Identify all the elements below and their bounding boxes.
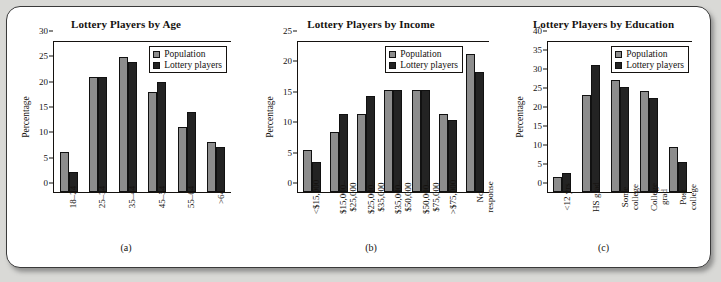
- x-axis-tick-label: Post college: [678, 184, 721, 210]
- bar-population: [640, 91, 649, 192]
- legend-label-population: Population: [626, 49, 667, 59]
- legend-item-lottery-players: Lottery players: [389, 60, 458, 70]
- y-axis-tick-label: 10: [39, 127, 48, 137]
- bar-population: [207, 142, 216, 192]
- legend-item-lottery-players: Lottery players: [153, 60, 222, 70]
- legend-item-lottery-players: Lottery players: [615, 60, 684, 70]
- x-axis-ticks: <12 yrsHS gradSome collegeCollege gradPo…: [547, 194, 692, 264]
- bar-group: [60, 42, 78, 192]
- bar-lottery-players: [620, 87, 629, 192]
- legend: Population Lottery players: [611, 46, 689, 73]
- y-axis-tick-label: 0: [288, 178, 293, 188]
- legend-swatch-lottery-players-icon: [153, 62, 160, 69]
- legend-label-population: Population: [164, 49, 205, 59]
- y-axis-tick-label: 15: [39, 102, 48, 112]
- bar-population: [119, 57, 128, 192]
- page-title: Lottery Players by Education: [497, 18, 710, 30]
- legend-item-population: Population: [153, 49, 222, 59]
- y-axis-tick-label: 15: [533, 121, 542, 131]
- y-axis-tick-label: 40: [533, 26, 542, 36]
- bar-lottery-players: [366, 96, 375, 192]
- y-axis-tick-label: 25: [533, 83, 542, 93]
- y-axis-tick-label: 0: [44, 178, 49, 188]
- y-axis-tick-label: 30: [533, 64, 542, 74]
- panel-caption-a: (a): [7, 242, 245, 253]
- y-axis-tick-label: 20: [283, 56, 292, 66]
- legend-swatch-population-icon: [615, 51, 622, 58]
- legend-label-population: Population: [400, 49, 441, 59]
- x-axis-ticks: <$15,000$15,000– $25,000$25,000– $35,000…: [297, 194, 489, 264]
- bar-population: [148, 92, 157, 192]
- bar-group: [303, 42, 321, 192]
- bar-lottery-players: [475, 72, 484, 192]
- legend-swatch-population-icon: [389, 51, 396, 58]
- panel-caption-c: (c): [497, 242, 710, 253]
- y-axis-tick-label: 25: [39, 51, 48, 61]
- y-axis-tick-label: 5: [288, 148, 293, 158]
- legend-label-lottery-players: Lottery players: [164, 60, 222, 70]
- legend-item-population: Population: [615, 49, 684, 59]
- y-axis-tick-label: 20: [39, 77, 48, 87]
- bar-lottery-players: [591, 65, 600, 193]
- chart-panel-education: Lottery Players by Education Percentage …: [497, 7, 710, 267]
- legend-label-lottery-players: Lottery players: [400, 60, 458, 70]
- bar-group: [357, 42, 375, 192]
- legend-swatch-population-icon: [153, 51, 160, 58]
- y-axis-tick-label: 0: [538, 178, 543, 188]
- y-axis-tick-label: 30: [39, 26, 48, 36]
- bar-group: [553, 42, 571, 192]
- bar-population: [582, 95, 591, 193]
- legend-item-population: Population: [389, 49, 458, 59]
- bar-population: [178, 127, 187, 192]
- bar-group: [582, 42, 600, 192]
- y-axis-tick-label: 20: [533, 102, 542, 112]
- bar-population: [384, 90, 393, 192]
- y-axis-tick-label: 10: [283, 117, 292, 127]
- y-axis-tick-label: 15: [283, 87, 292, 97]
- y-axis-ticks: 0510152025: [271, 41, 297, 193]
- legend: Population Lottery players: [385, 46, 463, 73]
- plot-area-income: Percentage 0510152025 Population Lottery…: [271, 41, 489, 193]
- bar-group: [466, 42, 484, 192]
- plot-area-education: Percentage 0510152025303540 Population L…: [521, 41, 692, 193]
- x-axis-ticks: 18–2425–3435–4445–5455–64>64: [53, 194, 231, 264]
- y-axis-ticks: 0510152025303540: [521, 41, 547, 193]
- y-axis-tick-label: 10: [533, 140, 542, 150]
- bar-group: [89, 42, 107, 192]
- chart-panel-age: Lottery Players by Age Percentage 051015…: [7, 7, 245, 267]
- plot-area-age: Percentage 051015202530 Population Lotte…: [27, 41, 231, 193]
- bar-population: [412, 90, 421, 192]
- bar-population: [89, 77, 98, 192]
- panel-caption-b: (b): [245, 242, 497, 253]
- legend: Population Lottery players: [149, 46, 227, 73]
- bar-lottery-players: [128, 62, 137, 192]
- y-axis-ticks: 051015202530: [27, 41, 53, 193]
- bar-population: [611, 80, 620, 193]
- bar-population: [466, 54, 475, 192]
- bar-lottery-players: [393, 90, 402, 192]
- legend-label-lottery-players: Lottery players: [626, 60, 684, 70]
- y-axis-tick-label: 5: [44, 153, 49, 163]
- bar-lottery-players: [157, 82, 166, 192]
- bar-lottery-players: [649, 98, 658, 192]
- chart-panel-income: Lottery Players by Income Percentage 051…: [245, 7, 497, 267]
- legend-swatch-lottery-players-icon: [389, 62, 396, 69]
- bar-group: [119, 42, 137, 192]
- bar-lottery-players: [421, 90, 430, 192]
- plot-canvas: Population Lottery players: [53, 41, 231, 193]
- figure-frame: Lottery Players by Age Percentage 051015…: [6, 6, 711, 268]
- y-axis-tick-label: 25: [283, 26, 292, 36]
- bar-lottery-players: [98, 77, 107, 192]
- panel-row: Lottery Players by Age Percentage 051015…: [7, 7, 710, 267]
- plot-canvas: Population Lottery players: [297, 41, 489, 193]
- y-axis-tick-label: 35: [533, 45, 542, 55]
- bar-group: [330, 42, 348, 192]
- bar-lottery-players: [187, 112, 196, 192]
- plot-canvas: Population Lottery players: [547, 41, 692, 193]
- legend-swatch-lottery-players-icon: [615, 62, 622, 69]
- y-axis-tick-label: 5: [538, 159, 543, 169]
